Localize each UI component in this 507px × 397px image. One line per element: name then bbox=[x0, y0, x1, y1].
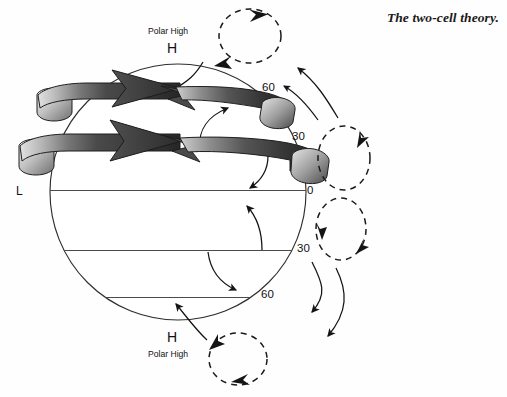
latitude-label-south-60: 60 bbox=[261, 289, 274, 301]
latitude-label-north-30: 30 bbox=[292, 131, 305, 143]
north-polar-high-label: Polar High bbox=[148, 27, 188, 36]
south-polar-high-label: Polar High bbox=[148, 350, 188, 359]
outer-arrow-north-upper bbox=[298, 68, 338, 118]
two-cell-theory-diagram bbox=[0, 0, 507, 397]
dashed-cell-south-polar-arrowhead-bottom bbox=[231, 374, 250, 385]
band-upper-right-cap bbox=[260, 97, 295, 128]
north-high-symbol: H bbox=[167, 41, 177, 55]
dashed-cell-north-polar bbox=[219, 9, 281, 63]
figure-caption: The two-cell theory. bbox=[387, 10, 499, 26]
dashed-cell-south-hadley-arrowhead-right bbox=[356, 238, 369, 254]
dashed-cell-north-polar-arrowhead-bottom bbox=[214, 56, 232, 69]
latitude-label-south-30: 30 bbox=[297, 243, 310, 255]
latitude-label-equator: 0 bbox=[307, 185, 313, 197]
south-high-symbol: H bbox=[167, 330, 177, 344]
outer-arrow-south-outer bbox=[328, 268, 344, 336]
latitude-label-north-60: 60 bbox=[262, 82, 275, 94]
outer-arrow-south-mid bbox=[312, 262, 322, 312]
equatorial-low-symbol: L bbox=[16, 185, 23, 197]
figure-root: The two-cell theory. Polar High H H Pola… bbox=[0, 0, 507, 397]
